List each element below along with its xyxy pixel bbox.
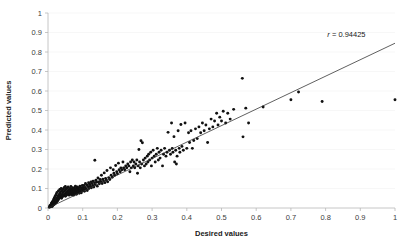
- data-point: [203, 129, 206, 132]
- data-point: [232, 108, 235, 111]
- correlation-annotation: r = 0.94425: [327, 30, 365, 39]
- data-point: [106, 180, 109, 183]
- data-point: [109, 166, 112, 169]
- y-axis-title: Predicted values: [4, 81, 13, 141]
- data-point: [134, 162, 137, 165]
- y-tick-label: 0.8: [32, 48, 42, 57]
- data-point: [394, 98, 397, 101]
- y-tick-label: 0.6: [32, 87, 42, 96]
- x-tick-label: 1: [393, 213, 397, 222]
- data-point: [244, 107, 247, 110]
- data-point: [321, 100, 324, 103]
- data-point: [136, 172, 139, 175]
- data-point: [190, 129, 193, 132]
- data-point: [204, 123, 207, 126]
- y-tick-label: 0.2: [32, 165, 42, 174]
- data-point: [160, 149, 163, 152]
- data-point: [241, 77, 244, 80]
- data-point: [127, 164, 130, 167]
- data-point: [128, 170, 131, 173]
- data-point: [141, 141, 144, 144]
- data-point: [178, 151, 181, 154]
- data-point: [163, 147, 166, 150]
- data-point: [180, 145, 183, 148]
- data-point: [215, 112, 218, 115]
- x-tick-label: 0.8: [320, 213, 330, 222]
- data-point: [179, 123, 182, 126]
- data-point: [173, 135, 176, 138]
- data-point: [174, 149, 177, 152]
- y-tick-label: 0.1: [32, 184, 42, 193]
- data-point: [220, 120, 223, 123]
- y-tick-label: 0.9: [32, 28, 42, 37]
- data-point: [150, 164, 153, 167]
- data-point: [218, 116, 221, 119]
- data-point: [93, 159, 96, 162]
- data-point: [159, 157, 162, 160]
- data-point: [156, 147, 159, 150]
- data-point: [149, 151, 152, 154]
- trend-line: [48, 43, 395, 208]
- data-point: [182, 149, 185, 152]
- data-point: [139, 166, 142, 169]
- data-point: [114, 164, 117, 167]
- data-point: [112, 168, 115, 171]
- x-tick-label: 0.2: [112, 213, 122, 222]
- x-tick-label: 0.1: [77, 213, 87, 222]
- x-tick-label: 0.9: [355, 213, 365, 222]
- x-tick-label: 0.6: [251, 213, 261, 222]
- chart-canvas: 00.10.20.30.40.50.60.70.80.9100.10.20.30…: [0, 0, 412, 249]
- data-point: [208, 127, 211, 130]
- x-axis-title: Desired values: [195, 229, 248, 238]
- data-point: [191, 147, 194, 150]
- data-point: [289, 98, 292, 101]
- data-point: [187, 131, 190, 134]
- data-point: [242, 135, 245, 138]
- data-point: [247, 122, 250, 125]
- data-point: [210, 118, 213, 121]
- data-point: [169, 153, 172, 156]
- data-point: [106, 169, 109, 172]
- data-point: [197, 125, 200, 128]
- data-point: [184, 122, 187, 125]
- data-point: [217, 123, 220, 126]
- x-tick-label: 0: [46, 213, 50, 222]
- data-point: [137, 148, 140, 151]
- data-point: [155, 153, 158, 156]
- data-point: [185, 147, 188, 150]
- x-tick-label: 0.7: [286, 213, 296, 222]
- data-point: [201, 122, 204, 125]
- data-point: [177, 129, 180, 132]
- data-point: [122, 161, 125, 164]
- data-point: [135, 159, 138, 162]
- x-tick-label: 0.5: [216, 213, 226, 222]
- data-point: [297, 91, 300, 94]
- data-point: [175, 162, 178, 165]
- data-point: [161, 164, 164, 167]
- data-point: [170, 122, 173, 125]
- data-point: [199, 131, 202, 134]
- y-tick-label: 0.7: [32, 67, 42, 76]
- data-point: [171, 151, 174, 154]
- data-point: [213, 120, 216, 123]
- data-point: [226, 112, 229, 115]
- data-point: [152, 149, 155, 152]
- data-point: [211, 125, 214, 128]
- data-point: [154, 161, 157, 164]
- y-tick-label: 1: [38, 9, 42, 18]
- data-point: [100, 174, 103, 177]
- y-tick-label: 0.4: [32, 126, 42, 135]
- x-tick-label: 0.4: [182, 213, 192, 222]
- x-tick-label: 0.3: [147, 213, 157, 222]
- data-point: [165, 155, 168, 158]
- y-tick-label: 0.5: [32, 106, 42, 115]
- y-tick-label: 0: [38, 204, 42, 213]
- data-point: [194, 127, 197, 130]
- data-point: [222, 110, 225, 113]
- scatter-chart: 00.10.20.30.40.50.60.70.80.9100.10.20.30…: [0, 0, 412, 249]
- data-point: [103, 171, 106, 174]
- data-point: [229, 118, 232, 121]
- data-point: [206, 141, 209, 144]
- data-point: [167, 131, 170, 134]
- data-point: [117, 162, 120, 165]
